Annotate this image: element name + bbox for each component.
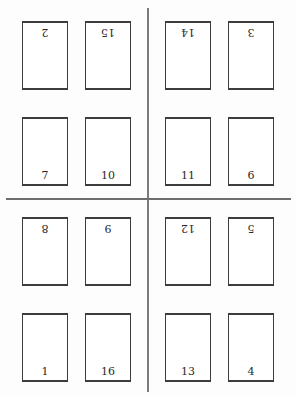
page-box-5: 5 bbox=[228, 217, 274, 286]
page-number: 7 bbox=[23, 170, 67, 182]
page-number: 11 bbox=[166, 170, 210, 182]
page-number: 4 bbox=[229, 366, 273, 378]
page-box-13: 13 bbox=[165, 313, 211, 382]
horizontal-fold-line bbox=[6, 198, 291, 200]
page-number: 13 bbox=[166, 366, 210, 378]
imposition-diagram: 2 15 7 10 14 3 11 6 8 9 1 16 12 5 13 4 bbox=[0, 0, 296, 396]
page-box-16: 16 bbox=[85, 313, 131, 382]
page-box-4: 4 bbox=[228, 313, 274, 382]
vertical-fold-line bbox=[147, 8, 149, 392]
page-box-11: 11 bbox=[165, 117, 211, 186]
page-box-15: 15 bbox=[85, 21, 131, 90]
page-box-10: 10 bbox=[85, 117, 131, 186]
page-number: 8 bbox=[23, 222, 67, 234]
page-number: 3 bbox=[229, 26, 273, 38]
page-number: 9 bbox=[86, 222, 130, 234]
page-number: 6 bbox=[229, 170, 273, 182]
page-box-14: 14 bbox=[165, 21, 211, 90]
page-box-12: 12 bbox=[165, 217, 211, 286]
page-box-6: 6 bbox=[228, 117, 274, 186]
page-box-3: 3 bbox=[228, 21, 274, 90]
page-box-7: 7 bbox=[22, 117, 68, 186]
page-number: 5 bbox=[229, 222, 273, 234]
page-box-2: 2 bbox=[22, 21, 68, 90]
page-number: 10 bbox=[86, 170, 130, 182]
page-number: 2 bbox=[23, 26, 67, 38]
page-box-8: 8 bbox=[22, 217, 68, 286]
page-number: 14 bbox=[166, 26, 210, 38]
page-number: 1 bbox=[23, 366, 67, 378]
page-number: 15 bbox=[86, 26, 130, 38]
page-box-1: 1 bbox=[22, 313, 68, 382]
page-number: 12 bbox=[166, 222, 210, 234]
page-number: 16 bbox=[86, 366, 130, 378]
page-box-9: 9 bbox=[85, 217, 131, 286]
